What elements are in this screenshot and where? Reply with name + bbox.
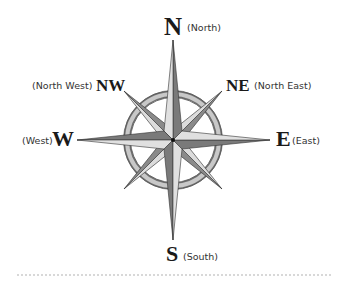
center-pin	[171, 138, 175, 142]
label-s-abbr: S	[166, 243, 178, 265]
label-e-name: (East)	[292, 136, 320, 146]
label-w-name: (West)	[22, 136, 53, 146]
label-w-abbr: W	[52, 128, 74, 150]
label-nw-abbr: NW	[96, 77, 125, 94]
dotted-divider	[17, 274, 331, 276]
label-s-name: (South)	[183, 252, 218, 262]
label-ne-name: (North East)	[254, 81, 312, 91]
label-nw-name: (North West)	[32, 81, 92, 91]
label-e-abbr: E	[276, 128, 291, 150]
label-ne-abbr: NE	[226, 77, 250, 94]
label-n-abbr: N	[164, 14, 182, 39]
label-n-name: (North)	[187, 23, 221, 33]
